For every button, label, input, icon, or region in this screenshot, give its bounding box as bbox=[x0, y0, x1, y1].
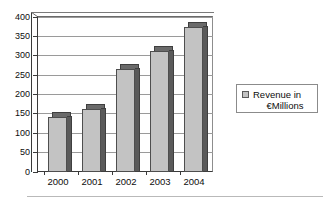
y-tick-label-400: 400 bbox=[0, 13, 30, 22]
y-tick-mark-0 bbox=[33, 172, 38, 173]
bar-2003 bbox=[150, 46, 169, 172]
legend-label-line2: €Millions bbox=[253, 100, 317, 111]
x-tick-mark-1 bbox=[78, 172, 79, 175]
y-tick-label-50: 50 bbox=[0, 148, 30, 157]
bar-2003-side-face bbox=[169, 50, 174, 172]
bar-chart: 400 350 300 250 200 150 100 50 0 bbox=[0, 0, 327, 203]
y-tick-label-150: 150 bbox=[0, 109, 30, 118]
y-tick-mark-300 bbox=[33, 55, 38, 56]
y-tick-mark-350 bbox=[33, 36, 38, 37]
y-tick-label-100: 100 bbox=[0, 129, 30, 138]
y-tick-mark-250 bbox=[33, 75, 38, 76]
y-tick-label-200: 200 bbox=[0, 90, 30, 99]
x-tick-label-2001: 2001 bbox=[76, 177, 108, 187]
plot-depth-top-edge bbox=[31, 12, 214, 13]
legend-swatch-icon bbox=[242, 91, 249, 98]
y-tick-mark-400 bbox=[33, 17, 38, 18]
legend-label-line1: Revenue in bbox=[253, 89, 317, 100]
bar-2000-side-face bbox=[67, 116, 72, 172]
bar-2002 bbox=[116, 64, 135, 172]
x-tick-mark-3 bbox=[146, 172, 147, 175]
bottom-divider bbox=[27, 196, 323, 197]
y-tick-mark-200 bbox=[33, 94, 38, 95]
bar-2001-front-face bbox=[82, 109, 101, 172]
y-axis: 400 350 300 250 200 150 100 50 0 bbox=[0, 0, 30, 203]
legend-label: Revenue in €Millions bbox=[253, 89, 317, 111]
bar-2002-front-face bbox=[116, 69, 135, 172]
bar-2000-front-face bbox=[48, 117, 67, 172]
y-tick-label-250: 250 bbox=[0, 71, 30, 80]
x-tick-mark-2 bbox=[112, 172, 113, 175]
bar-2000 bbox=[48, 112, 67, 172]
x-tick-mark-4 bbox=[180, 172, 181, 175]
legend-item-revenue: Revenue in €Millions bbox=[242, 89, 317, 111]
bar-2003-front-face bbox=[150, 51, 169, 172]
y-tick-mark-50 bbox=[33, 152, 38, 153]
y-tick-label-0: 0 bbox=[0, 168, 30, 177]
bar-2002-side-face bbox=[135, 68, 140, 172]
x-tick-label-2003: 2003 bbox=[144, 177, 176, 187]
x-tick-label-2002: 2002 bbox=[110, 177, 142, 187]
bar-2004-front-face bbox=[184, 27, 203, 172]
y-tick-mark-100 bbox=[33, 133, 38, 134]
y-tick-label-300: 300 bbox=[0, 51, 30, 60]
bar-2001-side-face bbox=[101, 108, 106, 172]
x-tick-label-2000: 2000 bbox=[42, 177, 74, 187]
y-tick-label-350: 350 bbox=[0, 32, 30, 41]
gridline-400 bbox=[38, 17, 213, 18]
x-tick-mark-0 bbox=[44, 172, 45, 175]
bar-2004 bbox=[184, 22, 203, 172]
bar-2004-side-face bbox=[203, 26, 208, 172]
y-tick-mark-150 bbox=[33, 113, 38, 114]
x-tick-label-2004: 2004 bbox=[178, 177, 210, 187]
chart-legend: Revenue in €Millions bbox=[236, 84, 318, 113]
bar-2001 bbox=[82, 104, 101, 172]
